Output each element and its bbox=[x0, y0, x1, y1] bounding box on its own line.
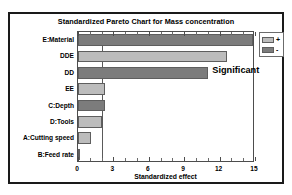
bar-ee bbox=[78, 83, 105, 95]
y-axis-label: D:Tools bbox=[50, 114, 74, 130]
x-axis-tick-label: 0 bbox=[75, 165, 79, 172]
chart-title: Standardized Pareto Chart for Mass conce… bbox=[10, 17, 282, 26]
x-axis-tick-label: 12 bbox=[215, 165, 222, 172]
axis-tick-mark bbox=[102, 158, 103, 161]
bar-row: DDE bbox=[78, 48, 253, 64]
axis-tick-mark bbox=[220, 32, 221, 36]
x-axis-tick-label: 15 bbox=[250, 165, 257, 172]
axis-tick-mark bbox=[208, 32, 209, 35]
axis-tick-mark bbox=[78, 157, 79, 161]
y-axis-label: C:Depth bbox=[48, 98, 74, 114]
y-axis-label: DD bbox=[64, 65, 74, 81]
axis-tick-mark bbox=[113, 157, 114, 161]
chart-legend: + - bbox=[259, 32, 284, 57]
axis-tick-mark bbox=[231, 32, 232, 35]
legend-item-positive: + bbox=[262, 35, 281, 44]
axis-tick-mark bbox=[184, 32, 185, 36]
significant-annotation: Significant bbox=[212, 66, 259, 75]
axis-tick-mark bbox=[172, 32, 173, 35]
pareto-chart-figure: Standardized Pareto Chart for Mass conce… bbox=[8, 12, 284, 184]
axis-tick-mark bbox=[208, 158, 209, 161]
axis-tick-mark bbox=[90, 158, 91, 161]
axis-tick-mark bbox=[220, 157, 221, 161]
axis-tick-mark bbox=[255, 157, 256, 161]
axis-tick-mark bbox=[196, 158, 197, 161]
bar-a-cutting-speed bbox=[78, 132, 91, 144]
bar-dd bbox=[78, 67, 208, 79]
y-axis-label: B:Feed rate bbox=[38, 147, 74, 163]
y-axis-label: EE bbox=[65, 81, 74, 97]
legend-label-negative: - bbox=[276, 46, 278, 53]
y-axis-label: DDE bbox=[60, 48, 74, 64]
y-axis-label: A:Cutting speed bbox=[23, 130, 74, 146]
x-axis-tick-label: 6 bbox=[146, 165, 150, 172]
axis-tick-mark bbox=[78, 32, 79, 36]
bar-e-material bbox=[78, 34, 253, 46]
legend-swatch-negative-icon bbox=[262, 47, 274, 53]
axis-tick-mark bbox=[184, 157, 185, 161]
axis-tick-mark bbox=[243, 158, 244, 161]
bar-row: C:Depth bbox=[78, 98, 253, 114]
axis-tick-mark bbox=[125, 32, 126, 35]
bar-row: A:Cutting speed bbox=[78, 130, 253, 146]
x-axis-tick-label: 3 bbox=[111, 165, 115, 172]
x-axis-title: Standardized effect bbox=[77, 173, 254, 180]
bar-row: E:Material bbox=[78, 32, 253, 48]
axis-tick-mark bbox=[196, 32, 197, 35]
bar-d-tools bbox=[78, 116, 102, 128]
axis-tick-mark bbox=[149, 32, 150, 36]
axis-tick-mark bbox=[172, 158, 173, 161]
bar-c-depth bbox=[78, 100, 105, 112]
axis-tick-mark bbox=[161, 158, 162, 161]
axis-tick-mark bbox=[149, 157, 150, 161]
axis-tick-mark bbox=[255, 32, 256, 36]
axis-tick-mark bbox=[102, 32, 103, 35]
bar-row: EE bbox=[78, 81, 253, 97]
plot-area: E:MaterialDDEDDEEC:DepthD:ToolsA:Cutting… bbox=[77, 31, 254, 162]
legend-label-positive: + bbox=[276, 36, 280, 43]
bar-row: D:Tools bbox=[78, 114, 253, 130]
bar-row: B:Feed rate bbox=[78, 147, 253, 163]
bar-dde bbox=[78, 51, 227, 63]
axis-tick-mark bbox=[137, 158, 138, 161]
axis-tick-mark bbox=[113, 32, 114, 36]
axis-tick-mark bbox=[125, 158, 126, 161]
legend-swatch-positive-icon bbox=[262, 37, 274, 43]
x-axis-tick-label: 9 bbox=[181, 165, 185, 172]
axis-tick-mark bbox=[231, 158, 232, 161]
axis-tick-mark bbox=[137, 32, 138, 35]
y-axis-label: E:Material bbox=[42, 32, 74, 48]
axis-tick-mark bbox=[90, 32, 91, 35]
axis-tick-mark bbox=[243, 32, 244, 35]
legend-item-negative: - bbox=[262, 45, 281, 54]
axis-tick-mark bbox=[161, 32, 162, 35]
